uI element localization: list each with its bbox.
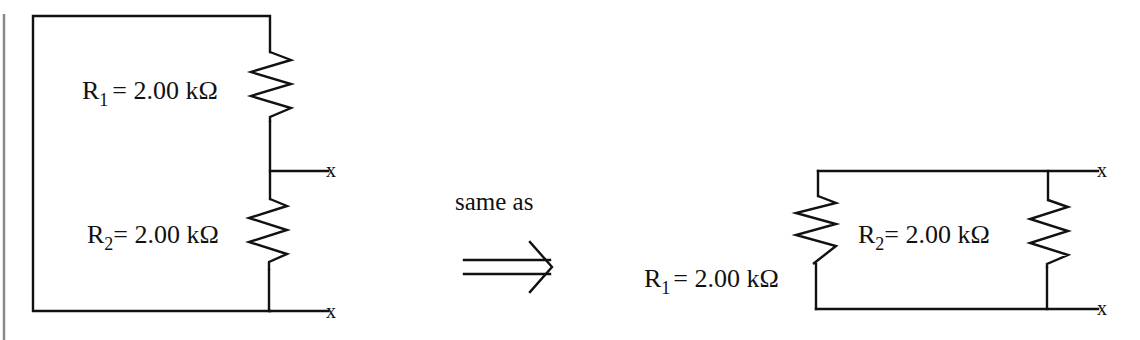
- double-right-arrow-icon: [464, 242, 552, 292]
- left-terminal-bottom: x: [326, 300, 336, 322]
- left-r1-label: R1= 2.00 kΩ: [82, 76, 218, 110]
- same-as-caption: same as: [455, 188, 533, 215]
- right-r2-label: R2= 2.00 kΩ: [858, 220, 990, 254]
- right-terminal-bottom: x: [1097, 297, 1107, 319]
- right-terminal-top: x: [1097, 159, 1107, 181]
- left-circuit: x x R1= 2.00 kΩ R2= 2.00 kΩ: [33, 16, 336, 322]
- right-circuit: x x R1= 2.00 kΩ R2= 2.00 kΩ: [644, 159, 1107, 319]
- left-loop-wire: [33, 16, 270, 311]
- left-terminal-top: x: [326, 159, 336, 181]
- left-r2-label: R2= 2.00 kΩ: [87, 220, 219, 254]
- right-r2-resistor-icon: [1030, 200, 1068, 268]
- right-r1-label: R1= 2.00 kΩ: [644, 264, 779, 298]
- left-r1-resistor-icon: [251, 52, 291, 122]
- equivalence-connector: same as: [455, 188, 552, 292]
- left-r2-resistor-icon: [249, 199, 287, 270]
- right-r1-resistor-icon: [796, 196, 836, 264]
- circuit-diagram: x x R1= 2.00 kΩ R2= 2.00 kΩ same as x x …: [0, 0, 1140, 340]
